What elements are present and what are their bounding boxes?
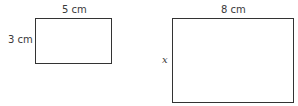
small-rectangle-width-label: 5 cm — [62, 5, 87, 15]
large-rectangle-height-label: x — [162, 55, 168, 65]
small-rectangle-height-label: 3 cm — [8, 35, 33, 45]
large-rectangle-width-label: 8 cm — [221, 5, 246, 15]
small-rectangle — [35, 18, 112, 64]
large-rectangle — [172, 18, 294, 103]
